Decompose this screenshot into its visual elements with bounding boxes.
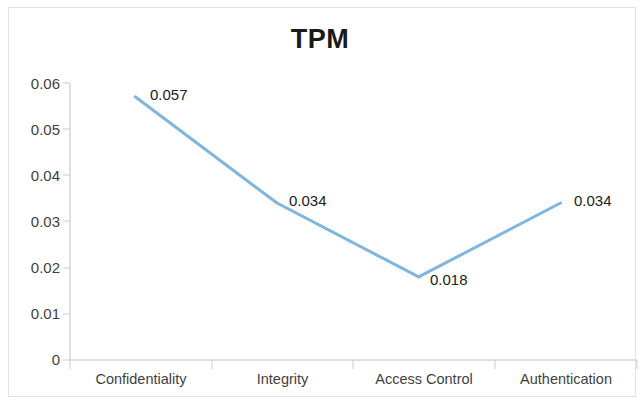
x-axis-category-authentication: Authentication xyxy=(495,371,637,387)
chart-container: TPM 0.06 0.05 0.04 0.03 0.02 0.01 0 xyxy=(0,0,640,404)
data-label-confidentiality: 0.057 xyxy=(150,86,188,103)
x-axis-ticks xyxy=(70,360,637,369)
data-label-integrity: 0.034 xyxy=(289,192,327,209)
data-label-authentication: 0.034 xyxy=(574,192,612,209)
x-axis-category-confidentiality: Confidentiality xyxy=(70,371,212,387)
y-axis-ticks xyxy=(63,83,70,360)
data-line-tpm xyxy=(135,97,560,277)
data-label-access-control: 0.018 xyxy=(430,271,468,288)
x-axis-category-integrity: Integrity xyxy=(212,371,353,387)
x-axis-category-access-control: Access Control xyxy=(353,371,495,387)
